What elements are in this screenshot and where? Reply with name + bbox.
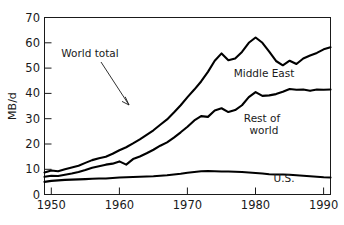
plot-frame [45, 18, 331, 195]
y-tick-label: 30 [25, 112, 40, 126]
world-total-leader-arrow [101, 62, 129, 105]
y-axis-title: MB/d [6, 92, 19, 120]
x-tick-label: 1980 [241, 198, 270, 212]
x-axis-tick-labels: 1950 1960 1970 1980 1990 [37, 198, 339, 212]
annotation-rest-of-line1: Rest of [244, 112, 281, 124]
x-tick-label: 1960 [105, 198, 134, 212]
annotation-us: U.S. [273, 172, 294, 184]
series-annotations: World total Middle East Rest of world U.… [61, 47, 294, 184]
y-tick-label: 60 [25, 36, 40, 50]
y-axis-tick-labels: 70 60 50 40 30 20 10 0 [25, 11, 40, 202]
annotation-rest-of-line2: world [250, 124, 279, 136]
line-chart: 70 60 50 40 30 20 10 0 1950 1960 1970 19… [0, 0, 344, 225]
x-axis-ticks [51, 188, 323, 195]
y-tick-label: 50 [25, 61, 40, 75]
y-tick-label: 70 [25, 11, 40, 25]
x-tick-label: 1990 [309, 198, 338, 212]
chart-container: 70 60 50 40 30 20 10 0 1950 1960 1970 19… [0, 0, 344, 225]
annotation-middle-east: Middle East [234, 67, 295, 79]
y-tick-label: 40 [25, 86, 40, 100]
y-tick-label: 10 [25, 162, 40, 176]
y-axis-title-label: MB/d [6, 92, 19, 120]
data-series-group [45, 37, 331, 181]
y-tick-label: 20 [25, 137, 40, 151]
series-line-rest-of-world [45, 89, 331, 177]
annotation-world-total: World total [61, 47, 118, 59]
x-tick-label: 1950 [37, 198, 66, 212]
y-axis-ticks [45, 18, 52, 195]
x-tick-label: 1970 [173, 198, 202, 212]
